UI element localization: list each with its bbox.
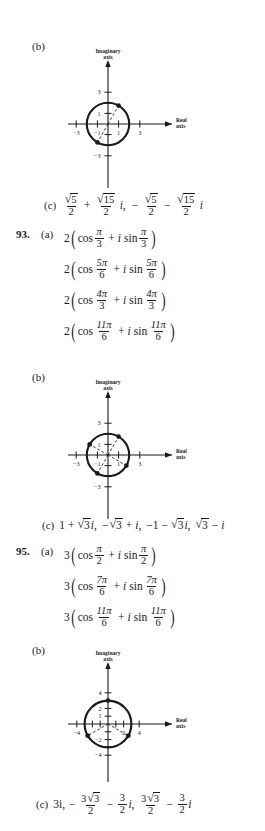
left-paren: ( xyxy=(71,323,75,339)
imaginary-unit: i xyxy=(123,294,126,306)
radicand: 3 xyxy=(115,518,123,532)
denominator: 2 xyxy=(146,805,155,817)
angle-denominator: 3 xyxy=(95,238,104,250)
answer-line-c3: (c) 3i , − 3√3 2 − 3 2 i , 3√3 2 − 3 2 i xyxy=(36,792,192,817)
y-tick-label: 1 xyxy=(97,441,100,448)
trig-form-93-2: 2 ( cos 5π 6 + i sin 5π 6 ) xyxy=(64,258,167,280)
modulus: 2 xyxy=(64,232,70,244)
argand-diagram-3: Imaginary axis Real axis −4 2 4 4 2 1 −2… xyxy=(60,648,195,788)
angle-fraction: 5π 6 xyxy=(95,258,110,280)
imaginary-unit: i xyxy=(118,232,121,244)
angle-denominator: 2 xyxy=(139,555,148,567)
y-tick-label: 3 xyxy=(97,88,100,95)
angle-denominator: 3 xyxy=(147,300,156,312)
right-paren: ) xyxy=(162,292,166,308)
answer-line-c2: (c) 1 + √3 i , − √3 + i , −1 − √3 i , √3… xyxy=(42,518,225,532)
sin-word: sin xyxy=(134,325,147,337)
angle-fraction: π 3 xyxy=(139,227,148,249)
part-label-c-1: (c) xyxy=(44,199,56,211)
angle-denominator: 2 xyxy=(95,555,104,567)
argand-diagram-2: Imaginary axis Real axis −3 −1 1 3 3 1 −… xyxy=(60,375,195,525)
angle-numerator: 7π xyxy=(144,575,159,586)
angle-numerator: 11π xyxy=(95,606,114,617)
angle-numerator: 11π xyxy=(149,606,168,617)
cos-word: cos xyxy=(78,325,93,337)
right-paren: ) xyxy=(162,578,166,594)
modulus: 3 xyxy=(64,580,70,592)
coefficient: 3 xyxy=(81,793,86,804)
trig-form-95-1: 3 ( cos π 2 + i sin π 2 ) xyxy=(64,544,157,566)
comma-separator: , xyxy=(123,199,126,211)
plus-operator: + xyxy=(126,519,133,531)
left-paren: ( xyxy=(71,292,75,308)
imaginary-axis-label-line2: axis xyxy=(103,656,113,662)
imaginary-unit: i xyxy=(118,549,121,561)
x-tick-label: 3 xyxy=(138,460,141,467)
fraction-sqrt15-over-2: √15 2 xyxy=(95,193,117,218)
radicand: 15 xyxy=(183,193,196,206)
y-tick-label: 2 xyxy=(98,705,101,712)
angle-numerator: 5π xyxy=(95,258,110,269)
sqrt3: √3 xyxy=(77,518,90,532)
exercise-number-93: 93. xyxy=(16,228,30,240)
axes-3 xyxy=(68,662,172,782)
y-tick-label: −4 xyxy=(95,751,102,758)
fraction-3sqrt3-over-2: 3√3 2 xyxy=(139,792,162,817)
angle-fraction: π 2 xyxy=(139,544,148,566)
answer-key-page: (b) xyxy=(0,0,265,831)
imaginary-unit: i xyxy=(188,798,191,810)
answer-line-c1: (c) √5 2 + √15 2 i , − √5 2 − √15 2 i xyxy=(44,193,203,218)
angle-fraction: π 2 xyxy=(95,544,104,566)
fraction-neg-sqrt15-over-2: √15 2 xyxy=(175,193,197,218)
radicand: 3 xyxy=(83,518,91,532)
angle-denominator: 3 xyxy=(97,300,106,312)
x-tick-label: −4 xyxy=(74,729,81,736)
cos-word: cos xyxy=(78,611,93,623)
modulus: 2 xyxy=(64,263,70,275)
cos-word: cos xyxy=(78,232,93,244)
modulus: 3 xyxy=(64,611,70,623)
part-label-b-3: (b) xyxy=(32,644,45,656)
x-tick-label: 1 xyxy=(117,460,120,467)
plus-operator: + xyxy=(114,263,121,275)
y-tick-label: −2 xyxy=(95,736,102,743)
real-axis-label-line2: axis xyxy=(176,723,186,729)
plus-operator: + xyxy=(118,325,125,337)
sqrt3: √3 xyxy=(171,518,184,532)
exercise-number-text: 93. xyxy=(16,228,30,240)
denominator: 2 xyxy=(101,206,110,218)
y-tick-label: 4 xyxy=(98,689,101,696)
angle-denominator: 6 xyxy=(99,331,108,343)
x-tick-label: 2 xyxy=(122,729,125,736)
angle-fraction: π 3 xyxy=(95,227,104,249)
fraction-3-over-2: 3 2 xyxy=(118,793,127,815)
angle-denominator: 6 xyxy=(147,269,156,281)
angle-denominator: 6 xyxy=(147,586,156,598)
imaginary-unit: i xyxy=(123,263,126,275)
imaginary-unit: i xyxy=(200,199,203,211)
imaginary-unit: i xyxy=(128,325,131,337)
minus-operator: − xyxy=(69,798,76,810)
radicand: 3 xyxy=(201,518,209,532)
part-label-text: (b) xyxy=(32,40,45,52)
coefficient: 3 xyxy=(141,793,146,804)
sin-word: sin xyxy=(124,232,137,244)
modulus: 3 xyxy=(64,549,70,561)
minus-operator: − xyxy=(212,519,219,531)
part-label-a-93: (a) xyxy=(41,228,53,240)
angle-fraction: 11π 6 xyxy=(95,320,114,342)
radicand: 3 xyxy=(153,792,160,805)
part-label-b-2: (b) xyxy=(32,371,45,383)
minus-operator: − xyxy=(107,798,114,810)
part-label-text: (a) xyxy=(41,228,53,240)
cos-word: cos xyxy=(78,580,93,592)
trig-form-95-2: 3 ( cos 7π 6 + i sin 7π 6 ) xyxy=(64,575,167,597)
radicand: 3 xyxy=(93,792,100,805)
angle-numerator: π xyxy=(95,544,104,555)
angle-fraction: 11π 6 xyxy=(149,320,168,342)
axes-2 xyxy=(68,391,172,519)
cos-word: cos xyxy=(78,294,93,306)
angle-denominator: 6 xyxy=(99,617,108,629)
fraction-sqrt5-over-2: √5 2 xyxy=(63,193,80,218)
axes-1 xyxy=(68,60,172,188)
